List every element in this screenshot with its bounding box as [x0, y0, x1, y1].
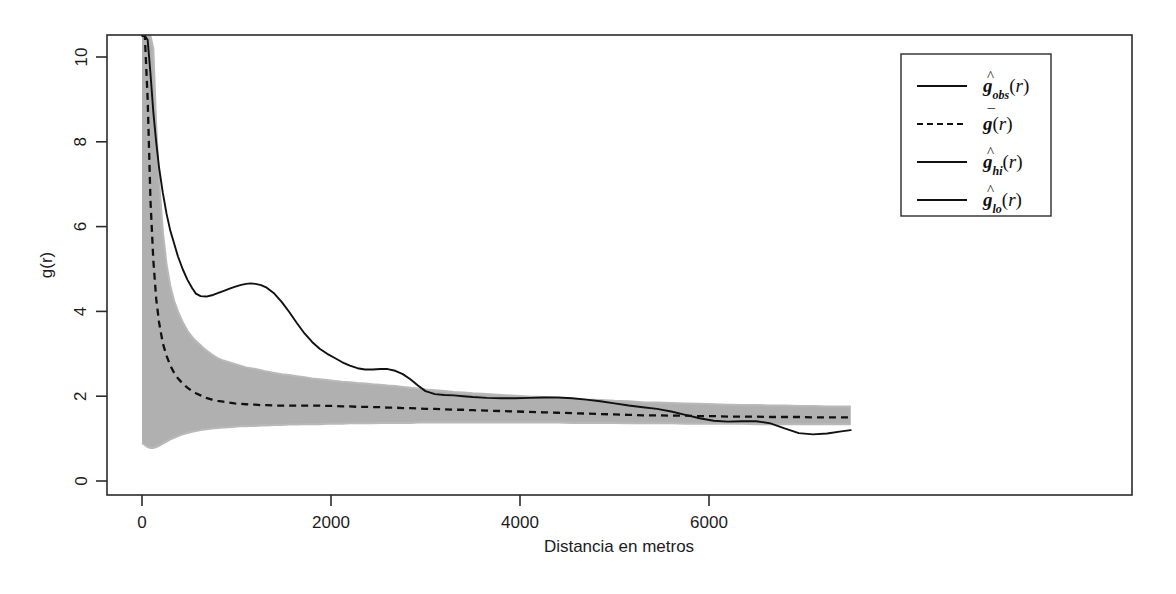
figure-container: 0200040006000 0246810 Distancia en metro…	[0, 0, 1176, 594]
y-tick-label: 2	[72, 391, 91, 400]
y-axis-title: g(r)	[37, 252, 56, 278]
x-tick-label: 2000	[312, 513, 350, 532]
y-tick-label: 0	[72, 476, 91, 485]
y-tick-label: 4	[72, 307, 91, 316]
chart-legend: ^gobs(r)¯g(r)^ghi(r)^glo(r)	[901, 54, 1051, 216]
y-tick-label: 10	[72, 48, 91, 67]
y-tick-label: 8	[72, 137, 91, 146]
x-tick-label: 0	[137, 513, 146, 532]
x-axis-title: Distancia en metros	[544, 537, 694, 556]
y-tick-label: 6	[72, 222, 91, 231]
x-tick-label: 6000	[690, 513, 728, 532]
g-function-envelope-chart: 0200040006000 0246810 Distancia en metro…	[0, 0, 1176, 594]
x-tick-label: 4000	[501, 513, 539, 532]
